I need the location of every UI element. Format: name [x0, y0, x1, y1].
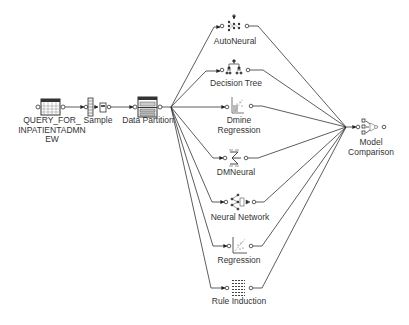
edges	[65, 26, 356, 288]
data-partition-icon	[138, 97, 157, 117]
regression-icon	[233, 237, 247, 253]
label-line: Regression	[218, 256, 261, 266]
node-label-dmine-regression: Dmine Regression	[218, 116, 261, 135]
node-label-regression: Regression	[218, 256, 261, 266]
model-comparison-icon	[362, 119, 378, 134]
edge-partition-tree	[171, 71, 220, 107]
node-dmine-regression[interactable]	[225, 97, 253, 113]
label-line: Neural Network	[211, 213, 270, 223]
edge-dmneural-compare	[248, 127, 346, 158]
autoneural-icon	[228, 14, 240, 31]
node-label-rule-induction: Rule Induction	[212, 297, 266, 307]
edge-autoneural-compare	[249, 26, 346, 127]
node-rule-induction[interactable]	[225, 279, 253, 297]
dmneural-icon	[229, 150, 241, 166]
node-label-dmneural: DMNeural	[217, 168, 255, 178]
label-line: AutoNeural	[214, 37, 257, 47]
node-label-neural-network: Neural Network	[211, 213, 270, 223]
node-dmneural[interactable]	[223, 150, 248, 166]
label-line: Regression	[218, 126, 261, 136]
node-label-model-comparison: Model Comparison	[348, 138, 394, 157]
label-line: Sample	[84, 116, 113, 126]
node-label-decision-tree: Decision Tree	[210, 79, 262, 89]
node-label-sample: Sample	[84, 116, 113, 126]
decision-tree-icon	[226, 60, 242, 74]
label-line: Decision Tree	[210, 79, 262, 89]
edge-partition-neural	[171, 107, 224, 202]
node-label-autoneural: AutoNeural	[214, 37, 257, 47]
node-data-partition[interactable]	[133, 97, 162, 117]
node-regression[interactable]	[227, 237, 253, 253]
edge-rule-compare	[253, 127, 346, 288]
node-autoneural[interactable]	[220, 14, 249, 31]
data-source-table-icon	[41, 99, 60, 115]
rule-induction-icon	[232, 279, 245, 297]
label-line: DMNeural	[217, 168, 255, 178]
edge-regression-compare	[253, 127, 346, 246]
neural-network-icon	[231, 194, 250, 210]
node-label-data-partition: Data Partition	[122, 116, 174, 126]
node-neural-network[interactable]	[224, 194, 256, 210]
label-line: EW	[18, 135, 86, 145]
node-decision-tree[interactable]	[220, 60, 250, 74]
label-line: Data Partition	[122, 116, 174, 126]
label-line: Comparison	[348, 148, 394, 158]
process-flow-diagram	[0, 0, 409, 325]
edge-partition-autoneural	[171, 27, 220, 107]
node-model-comparison[interactable]	[356, 119, 386, 134]
edge-tree-compare	[250, 70, 346, 127]
dmine-regression-icon	[232, 97, 244, 113]
node-label-query: QUERY_FOR_ INPATIENTADMN EW	[18, 116, 86, 145]
node-query[interactable]	[36, 99, 65, 115]
label-line: Rule Induction	[212, 297, 266, 307]
edge-dmine-compare	[253, 106, 346, 127]
sample-icon	[88, 98, 106, 116]
node-sample[interactable]	[84, 98, 111, 116]
